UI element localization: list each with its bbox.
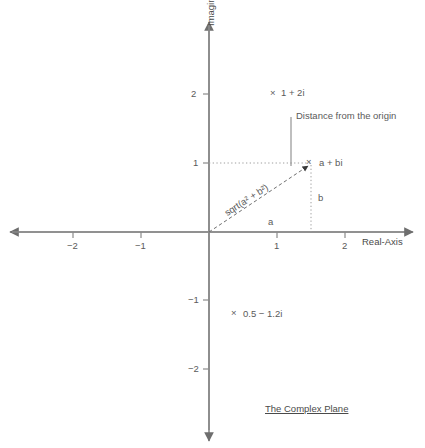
complex-plane-figure: Imaginary-Axis Real-Axis −2 −1 1 2 2 1 −… bbox=[0, 0, 425, 448]
point-label-one-plus-two-i: 1 + 2i bbox=[281, 88, 305, 98]
x-tick-label--2: −2 bbox=[67, 241, 78, 251]
point-guides bbox=[209, 163, 311, 232]
leg-a-label: a bbox=[268, 217, 273, 227]
y-tick-label--2: −2 bbox=[188, 364, 199, 374]
x-axis-title: Real-Axis bbox=[362, 237, 403, 247]
distance-callout-label: Distance from the origin bbox=[296, 111, 396, 121]
figure-title: The Complex Plane bbox=[265, 404, 348, 414]
point-label-a-plus-bi: a + bi bbox=[319, 158, 343, 168]
leg-b-label: b bbox=[318, 193, 323, 203]
point-marker-a-plus-bi: × bbox=[306, 157, 312, 167]
point-label-half-minus-1p2i: 0.5 − 1.2i bbox=[243, 309, 282, 319]
point-marker-one-plus-two-i: × bbox=[270, 88, 276, 98]
hypotenuse-line bbox=[209, 166, 308, 232]
plot-canvas bbox=[0, 0, 425, 448]
x-tick-label-1: 1 bbox=[274, 241, 279, 251]
y-tick-label-2: 2 bbox=[191, 89, 196, 99]
point-marker-half-minus-1p2i: × bbox=[231, 308, 237, 318]
x-tick-label--1: −1 bbox=[135, 241, 146, 251]
y-axis-title: Imaginary-Axis bbox=[206, 0, 216, 26]
y-tick-label-1: 1 bbox=[193, 158, 198, 168]
x-tick-label-2: 2 bbox=[342, 241, 347, 251]
y-tick-label--1: −1 bbox=[188, 295, 199, 305]
x-axis bbox=[10, 232, 413, 238]
